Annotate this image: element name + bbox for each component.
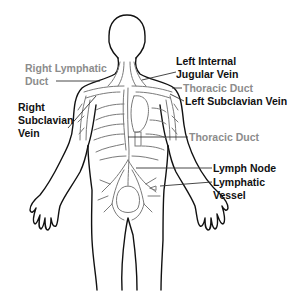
label-right-subclavian-vein: Right Subclavian Vein — [18, 101, 73, 140]
label-line: Right Lymphatic — [25, 62, 107, 75]
label-line: Vein — [18, 127, 73, 140]
body-diagram — [0, 0, 298, 300]
leader-left-subclavian — [170, 94, 184, 101]
label-line: Left Internal — [176, 55, 238, 68]
leader-lymphatic-vessel — [160, 182, 212, 186]
label-line: Lymphatic — [213, 176, 265, 189]
label-left-internal-jugular-vein: Left Internal Jugular Vein — [176, 55, 238, 81]
label-line: Right — [18, 101, 73, 114]
label-line: Subclavian — [18, 114, 73, 127]
label-lymphatic-vessel: Lymphatic Vessel — [213, 176, 265, 202]
label-line: Duct — [25, 75, 107, 88]
label-line: Jugular Vein — [176, 68, 238, 81]
label-thoracic-duct-upper: Thoracic Duct — [183, 82, 253, 95]
label-right-lymphatic-duct: Right Lymphatic Duct — [25, 62, 107, 88]
label-thoracic-duct-lower: Thoracic Duct — [189, 131, 259, 144]
label-left-subclavian-vein: Left Subclavian Vein — [185, 95, 287, 108]
label-line: Vessel — [213, 189, 265, 202]
label-lymph-node: Lymph Node — [213, 162, 276, 175]
leader-left-internal-jugular — [142, 72, 176, 80]
